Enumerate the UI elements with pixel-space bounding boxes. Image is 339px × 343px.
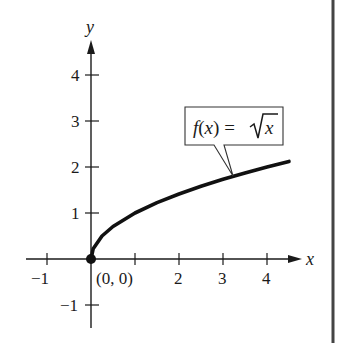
y-axis-label: y [84, 17, 94, 37]
x-axis: x −1 2 3 4 [26, 249, 314, 288]
y-tick-label-2: 2 [71, 158, 80, 177]
sqrt-curve [91, 161, 289, 259]
x-tick-label-3: 3 [218, 269, 227, 288]
sqrt-function-graph: x −1 2 3 4 y 4 3 2 [0, 0, 339, 343]
y-axis-arrow-icon [87, 40, 95, 54]
y-tick-label-1: 1 [71, 204, 80, 223]
origin-point-label: (0, 0) [96, 269, 133, 288]
y-tick-label-neg1: −1 [60, 296, 78, 315]
y-tick-label-4: 4 [71, 66, 80, 85]
function-label: f(x) = [193, 117, 235, 139]
origin-point [86, 254, 96, 264]
function-radicand: x [264, 117, 274, 138]
x-tick-label-2: 2 [174, 269, 183, 288]
y-tick-label-3: 3 [71, 112, 80, 131]
x-tick-label-neg1: −1 [31, 269, 49, 288]
x-axis-label: x [305, 249, 314, 269]
x-axis-arrow-icon [288, 255, 302, 263]
x-tick-label-4: 4 [262, 269, 271, 288]
y-axis: y 4 3 2 1 −1 [60, 17, 99, 328]
